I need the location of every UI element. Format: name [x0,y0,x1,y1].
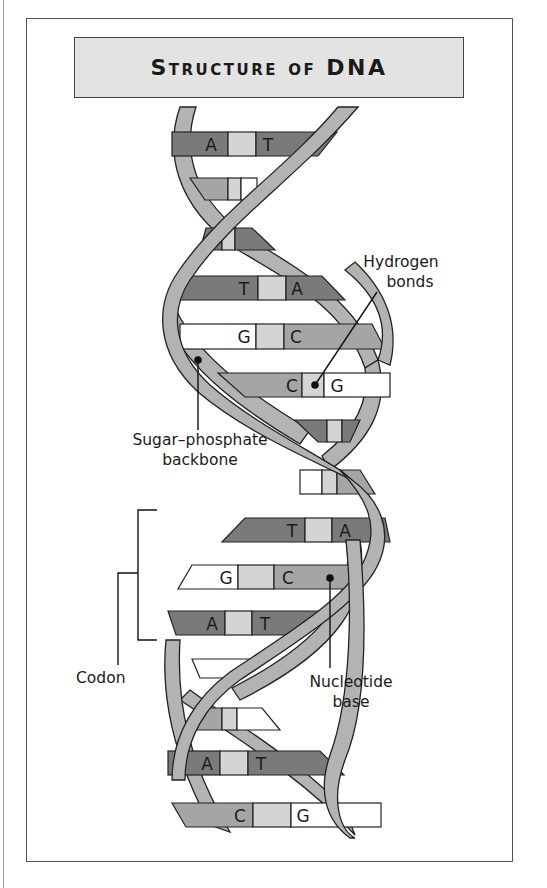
base-letter: A [206,614,218,634]
nucleotide-dot [326,574,334,582]
label-line: Nucleotide [296,672,406,692]
base-letter: A [291,279,303,299]
label-line: backbone [110,450,290,470]
base-letter: G [237,327,250,347]
base-letter: C [286,376,298,396]
base-pair-row [180,324,385,349]
label-line: bonds [356,272,446,292]
backbone-dot [194,356,202,364]
base-letter: T [286,521,298,541]
base-pair-row [172,803,381,827]
base-letter: G [219,568,232,588]
base-letter: T [255,754,267,774]
base-letter: C [290,327,302,347]
base-letter: T [259,614,271,634]
base-letter: T [238,279,250,299]
hydrogen-bond-dot [311,381,319,389]
base-letter: T [262,135,274,155]
base-letter: A [201,754,213,774]
backbone-label: Sugar–phosphate backbone [110,430,290,470]
base-pair-row [222,518,390,542]
label-line: Codon [76,668,166,688]
base-pair-row [172,276,345,300]
base-letter: A [205,135,217,155]
base-letter: C [282,568,294,588]
hydrogen-bonds-label: Hydrogen bonds [356,252,446,292]
base-letter: G [330,376,343,396]
base-pair-row [218,373,390,397]
base-pair-row [178,565,375,589]
base-letter: A [339,521,351,541]
codon-label: Codon [76,668,166,688]
base-letter: G [296,806,309,826]
label-line: base [296,692,406,712]
nucleotide-base-label: Nucleotide base [296,672,406,712]
label-line: Hydrogen [356,252,446,272]
label-line: Sugar–phosphate [110,430,290,450]
base-letter: C [234,806,246,826]
